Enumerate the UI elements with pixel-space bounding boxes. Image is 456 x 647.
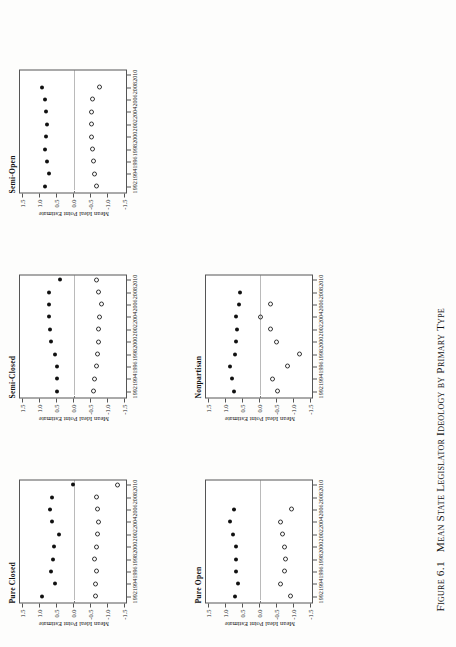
x-axis-tick — [127, 546, 131, 547]
x-axis-tick-label: 2010 — [132, 69, 138, 81]
x-axis-tick — [127, 74, 131, 75]
y-axis-tick — [56, 603, 57, 607]
y-axis-tick — [208, 603, 209, 607]
y-axis-tick — [225, 603, 226, 607]
zero-reference-line — [260, 480, 261, 602]
y-axis-tick-label: -1.0 — [289, 609, 296, 619]
data-point-democrat — [270, 376, 275, 381]
y-axis-tick — [276, 398, 277, 402]
x-axis-tick-label: 2008 — [318, 492, 324, 504]
y-axis-tick-label: 1.5 — [19, 609, 26, 617]
x-axis-tick-label: 2006 — [132, 504, 138, 516]
x-axis-tick-label: 1996 — [132, 566, 138, 578]
data-point-democrat — [275, 388, 280, 393]
x-axis-tick — [127, 99, 131, 100]
y-axis-tick — [259, 398, 260, 402]
plot-area — [205, 479, 313, 603]
x-axis-tick-label: 2002 — [318, 324, 324, 336]
x-axis-tick-label: 2010 — [318, 479, 324, 491]
plot-area — [19, 274, 127, 398]
y-axis-tick — [90, 398, 91, 402]
x-axis-tick-label: 2006 — [132, 299, 138, 311]
y-axis-tick — [39, 193, 40, 197]
y-axis: 1.51.00.50.0-0.5-1.0-1.5 — [19, 603, 127, 633]
y-axis-tick-label: -1.5 — [120, 609, 127, 619]
x-axis-tick — [127, 87, 131, 88]
x-axis-tick — [127, 279, 131, 280]
x-axis-tick — [127, 571, 131, 572]
y-axis-tick — [73, 603, 74, 607]
data-point-republican — [232, 389, 236, 393]
y-axis-tick-label: -0.5 — [272, 609, 279, 619]
data-point-democrat — [289, 507, 294, 512]
data-point-democrat — [268, 302, 273, 307]
y-axis-tick-label: 0.5 — [239, 609, 246, 617]
data-point-democrat — [92, 556, 97, 561]
figure-caption-text: Mean State Legislator Ideology by Primar… — [434, 308, 446, 552]
x-axis-tick-label: 2000 — [318, 541, 324, 553]
y-axis-title: Mean Ideal Point Estimate — [39, 415, 109, 422]
y-axis-tick-label: 0.0 — [256, 609, 263, 617]
x-axis-tick-label: 2008 — [132, 492, 138, 504]
figure-number: Figure 6.1 — [434, 561, 446, 611]
data-point-republican — [233, 352, 237, 356]
data-point-republican — [234, 544, 238, 548]
data-point-democrat — [95, 507, 100, 512]
data-point-republican — [48, 507, 52, 511]
x-axis-tick — [313, 341, 317, 342]
x-axis-tick — [313, 571, 317, 572]
y-axis-tick-label: -1.0 — [103, 404, 110, 414]
x-axis-tick-label: 1998 — [318, 349, 324, 361]
data-point-republican — [43, 147, 47, 151]
data-point-republican — [44, 134, 48, 138]
data-point-republican — [45, 122, 49, 126]
data-point-republican — [234, 339, 238, 343]
data-point-democrat — [282, 544, 287, 549]
panel-title: Pure Open — [194, 566, 203, 603]
data-point-republican — [237, 302, 241, 306]
x-axis-tick-label: 1992 — [318, 386, 324, 398]
x-axis-tick — [127, 136, 131, 137]
data-point-republican — [53, 352, 57, 356]
panel-title: Semi-Closed — [8, 355, 17, 398]
y-axis-tick — [276, 603, 277, 607]
x-axis-tick-label: 2010 — [318, 274, 324, 286]
panel-grid: Pure Closed1.51.00.50.0-0.5-1.0-1.5Mean … — [8, 13, 368, 633]
x-axis-tick — [313, 329, 317, 330]
y-axis-tick-label: -1.0 — [103, 199, 110, 209]
data-point-republican — [44, 109, 48, 113]
y-axis-tick — [56, 193, 57, 197]
x-axis-tick-label: 1994 — [132, 578, 138, 590]
y-axis-tick — [90, 603, 91, 607]
panel-nonpartisan: Nonpartisan1.51.00.50.0-0.5-1.0-1.5Mean … — [194, 268, 344, 428]
data-point-democrat — [278, 519, 283, 524]
y-axis-tick — [56, 398, 57, 402]
x-axis-tick — [127, 292, 131, 293]
x-axis-tick-label: 2010 — [132, 479, 138, 491]
data-point-democrat — [97, 84, 102, 89]
y-axis-tick-label: -1.5 — [306, 609, 313, 619]
x-axis-tick — [127, 559, 131, 560]
x-axis-tick-label: 2004 — [132, 106, 138, 118]
x-axis-tick — [313, 546, 317, 547]
plot-area — [205, 274, 313, 398]
data-point-democrat — [90, 97, 95, 102]
y-axis: 1.51.00.50.0-0.5-1.0-1.5 — [205, 398, 313, 428]
x-axis-tick-label: 2008 — [318, 287, 324, 299]
y-axis-tick-label: 0.5 — [53, 404, 60, 412]
x-axis-tick — [127, 316, 131, 317]
x-axis-tick-label: 1998 — [132, 554, 138, 566]
data-point-republican — [234, 557, 238, 561]
x-axis-tick — [127, 484, 131, 485]
data-point-republican — [43, 184, 47, 188]
data-point-democrat — [96, 326, 101, 331]
x-axis-tick-label: 1992 — [132, 181, 138, 193]
data-point-democrat — [94, 277, 99, 282]
y-axis-tick — [22, 398, 23, 402]
y-axis-tick-label: -0.5 — [86, 609, 93, 619]
data-point-republican — [236, 581, 240, 585]
data-point-republican — [50, 519, 54, 523]
y-axis-tick — [107, 398, 108, 402]
data-point-democrat — [95, 351, 100, 356]
y-axis-tick — [22, 603, 23, 607]
